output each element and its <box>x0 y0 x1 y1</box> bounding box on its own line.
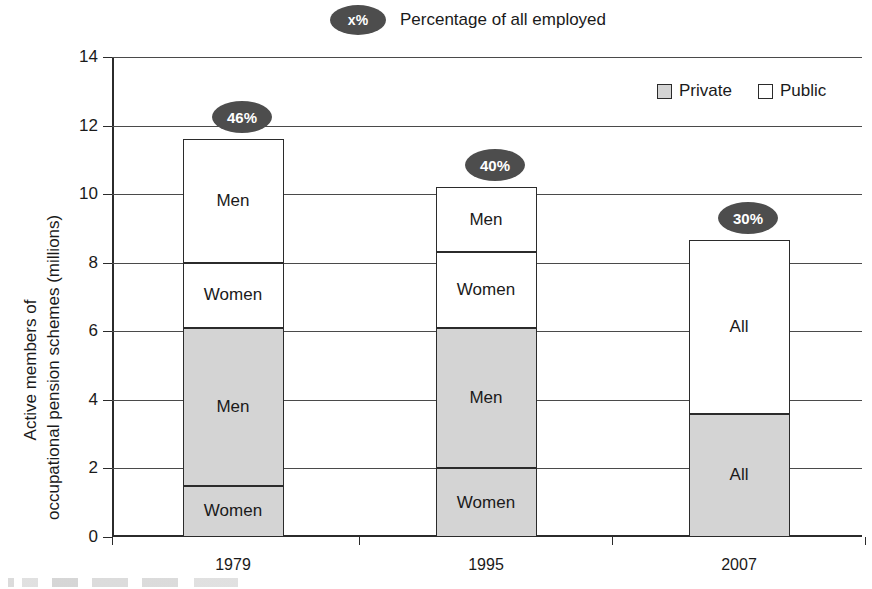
y-axis-title: Active members of occupational pension s… <box>20 220 66 520</box>
bar-segment-1979-public-men[interactable]: Men <box>183 139 284 262</box>
x-axis-label-1995: 1995 <box>426 556 546 574</box>
x-axis-label-1979: 1979 <box>173 556 293 574</box>
public-swatch-icon <box>758 84 773 99</box>
bar-segment-1979-private-men[interactable]: Men <box>183 328 284 486</box>
private-swatch-icon <box>657 84 672 99</box>
y-tick-label-0: 0 <box>58 527 98 547</box>
bar-segment-1995-public-men[interactable]: Men <box>436 187 537 252</box>
plot-area: 02468101214 WomenMenWomenMen46%WomenMenW… <box>112 57 862 537</box>
x-tick-mark-2 <box>865 537 866 545</box>
legend-item-public[interactable]: Public <box>758 81 826 101</box>
chart-legend: Private Public <box>655 80 828 102</box>
bar-segment-1979-private-women[interactable]: Women <box>183 486 284 537</box>
page-footer-artifact <box>8 578 258 587</box>
bar-segment-1995-public-women[interactable]: Women <box>436 252 537 327</box>
y-tick-label-10: 10 <box>58 184 98 204</box>
y-tick-mark-2 <box>103 468 112 469</box>
percentage-key-badge-label: x% <box>348 12 369 28</box>
x-tick-mark-origin <box>112 537 113 545</box>
legend-label-private: Private <box>679 81 732 101</box>
bar-segment-1979-public-women[interactable]: Women <box>183 263 284 328</box>
y-tick-mark-4 <box>103 400 112 401</box>
y-tick-mark-10 <box>103 194 112 195</box>
legend-item-private[interactable]: Private <box>657 81 732 101</box>
gridline-14 <box>112 57 862 58</box>
bar-segment-1995-private-women[interactable]: Women <box>436 468 537 537</box>
percentage-key: x% Percentage of all employed <box>330 5 606 35</box>
y-tick-label-14: 14 <box>58 47 98 67</box>
percentage-key-badge: x% <box>330 5 386 35</box>
y-tick-mark-14 <box>103 57 112 58</box>
percentage-badge-2007: 30% <box>718 202 778 234</box>
y-tick-label-12: 12 <box>58 116 98 136</box>
bar-segment-2007-private-all[interactable]: All <box>689 414 790 537</box>
y-axis-line <box>112 57 114 537</box>
percentage-badge-1995: 40% <box>465 149 525 181</box>
bar-segment-1995-private-men[interactable]: Men <box>436 328 537 469</box>
y-axis-title-line2: occupational pension schemes (millions) <box>43 220 66 520</box>
y-tick-mark-12 <box>103 126 112 127</box>
y-tick-mark-8 <box>103 263 112 264</box>
chart-page: x% Percentage of all employed Private Pu… <box>0 0 872 589</box>
bar-segment-2007-public-all[interactable]: All <box>689 240 790 413</box>
x-tick-mark-1 <box>612 537 613 545</box>
x-axis-label-2007: 2007 <box>679 556 799 574</box>
y-tick-mark-6 <box>103 331 112 332</box>
y-tick-mark-0 <box>103 537 112 538</box>
y-axis-title-line1: Active members of <box>20 220 43 520</box>
legend-label-public: Public <box>780 81 826 101</box>
percentage-key-label: Percentage of all employed <box>400 10 606 30</box>
x-tick-mark-0 <box>359 537 360 545</box>
percentage-badge-1979: 46% <box>212 101 272 133</box>
